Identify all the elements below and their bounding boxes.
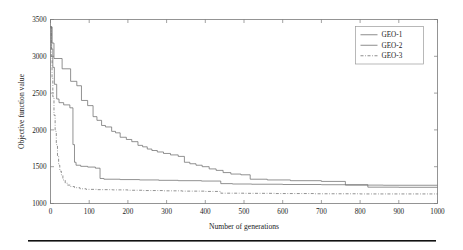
x-tick-label: 400 (200, 208, 211, 216)
x-tick-label: 800 (355, 208, 366, 216)
y-tick-label: 2500 (32, 90, 47, 98)
legend-label-geo-3: GEO-3 (382, 52, 403, 60)
x-tick-label: 1000 (430, 208, 445, 216)
chart-legend: GEO-1GEO-2GEO-3 (356, 27, 424, 65)
legend-label-geo-1: GEO-1 (382, 31, 403, 39)
x-tick-label: 0 (49, 208, 53, 216)
legend-label-geo-2: GEO-2 (382, 42, 403, 50)
y-axis-label: Objective function value (17, 73, 26, 149)
chart-figure: 01002003004005006007008009001000 1000150… (0, 0, 463, 250)
x-tick-label: 100 (84, 208, 95, 216)
x-tick-label: 300 (161, 208, 172, 216)
x-tick-label: 900 (393, 208, 404, 216)
footer-rule (28, 240, 436, 242)
y-tick-label: 2000 (32, 127, 47, 135)
y-tick-label: 3500 (32, 16, 47, 24)
x-axis-label: Number of generations (209, 222, 279, 231)
x-tick-label: 600 (277, 208, 288, 216)
y-tick-label: 1000 (32, 200, 47, 208)
y-tick-label: 3000 (32, 53, 47, 61)
objective-function-convergence-chart: 01002003004005006007008009001000 1000150… (0, 0, 463, 250)
x-tick-label: 700 (316, 208, 327, 216)
x-tick-label: 500 (239, 208, 250, 216)
y-tick-label: 1500 (32, 163, 47, 171)
x-tick-label: 200 (123, 208, 134, 216)
